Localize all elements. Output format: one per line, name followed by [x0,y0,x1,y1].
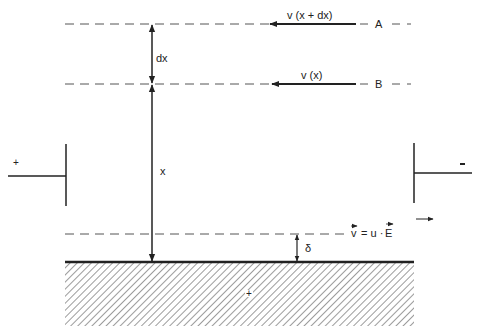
velocity-formula: v = u · E [351,224,393,239]
x-label: x [160,165,166,177]
svg-text:v: v [351,227,357,239]
right-electrode-sign [460,163,465,165]
dx-label: dx [156,52,168,64]
charged-surface-body [65,263,414,326]
velocity-a-label: v (x + dx) [287,9,333,21]
surface-sign: + [246,288,252,299]
svg-text:E: E [385,227,392,239]
line-b-label: B [375,78,382,90]
diagram-canvas: A v (x + dx) B v (x) dx x + v = u · E [0,0,481,336]
left-electrode [8,144,66,206]
delta-label: δ [305,242,311,254]
right-electrode [414,143,472,203]
velocity-b-label: v (x) [301,69,322,81]
line-a-label: A [375,18,383,30]
left-electrode-sign: + [13,157,19,168]
svg-text:= u ·: = u · [358,227,386,239]
